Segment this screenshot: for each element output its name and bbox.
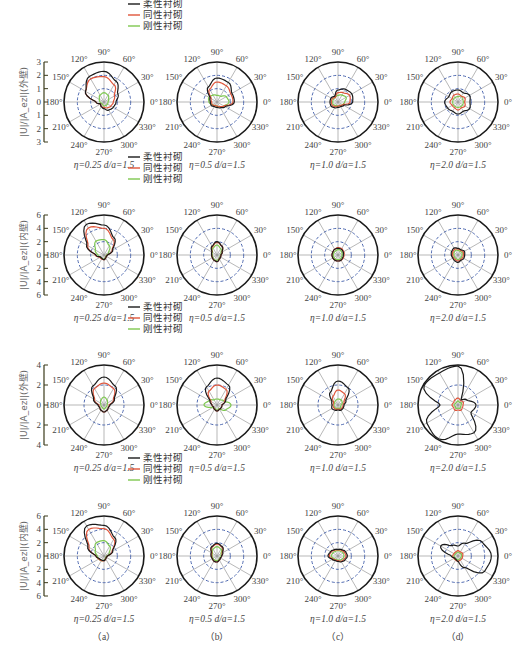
polar-plot-b: 0°30°60°90°120°150°180°210°240°270°300°3… (158, 501, 271, 642)
angle-tick-label: 300° (474, 293, 492, 303)
panel-params: η=0.25 d/a=1.5 (74, 614, 135, 624)
angle-tick-label: 30° (141, 72, 154, 82)
angle-tick-label: 0° (263, 250, 272, 260)
panel-params: η=1.0 d/a=1.5 (310, 160, 366, 170)
angle-tick-label: 0° (504, 250, 513, 260)
angle-tick-label: 150° (52, 375, 70, 385)
y-tick-label: 4 (37, 578, 42, 588)
angle-tick-label: 270° (449, 450, 467, 460)
polar-plot-d: 0°30°60°90°120°150°180°210°240°270°300°3… (399, 350, 512, 473)
angle-tick-label: 150° (286, 72, 304, 82)
angle-tick-label: 90° (98, 350, 111, 360)
angle-tick-label: 180° (158, 551, 176, 561)
angle-tick-label: 240° (70, 594, 88, 604)
panel-params: η=1.0 d/a=1.5 (310, 463, 366, 473)
y-tick-label: 0 (37, 551, 42, 561)
panel-params: η=0.25 d/a=1.5 (74, 463, 135, 473)
angle-tick-label: 240° (183, 140, 201, 150)
legend-label: 刚性衬砌 (143, 173, 183, 184)
angle-tick-label: 90° (98, 200, 111, 210)
angle-tick-label: 270° (449, 147, 467, 157)
figure-row-3: 柔性衬砌同性衬砌刚性衬砌42024|U|/|A_ezl|(外壁)0°30°60°… (18, 301, 512, 473)
angle-tick-label: 90° (332, 200, 345, 210)
angle-tick-label: 270° (329, 147, 347, 157)
angle-tick-label: 30° (495, 375, 508, 385)
legend: 柔性衬砌同性衬砌刚性衬砌 (128, 301, 183, 334)
angle-tick-label: 270° (95, 147, 113, 157)
angle-tick-label: 300° (474, 443, 492, 453)
angle-tick-label: 300° (354, 443, 372, 453)
panel-params: η=1.0 d/a=1.5 (310, 313, 366, 323)
angle-tick-label: 180° (399, 250, 417, 260)
angle-tick-label: 150° (165, 72, 183, 82)
angle-tick-label: 180° (158, 97, 176, 107)
angle-tick-label: 30° (495, 526, 508, 536)
angle-tick-label: 60° (357, 357, 370, 367)
angle-tick-label: 210° (52, 122, 70, 132)
legend-label: 同性衬砌 (143, 312, 183, 323)
angle-tick-label: 60° (123, 207, 136, 217)
angle-tick-label: 330° (493, 425, 511, 435)
angle-tick-label: 0° (263, 400, 272, 410)
angle-tick-label: 90° (452, 501, 465, 511)
angle-tick-label: 60° (123, 357, 136, 367)
angle-tick-label: 300° (354, 594, 372, 604)
angle-tick-label: 270° (95, 300, 113, 310)
angle-tick-label: 180° (158, 400, 176, 410)
angle-tick-label: 210° (165, 275, 183, 285)
angle-tick-label: 0° (384, 97, 393, 107)
angle-tick-label: 90° (211, 501, 224, 511)
panel-params: η=2.0 d/a=1.5 (430, 160, 486, 170)
angle-tick-label: 300° (233, 594, 251, 604)
y-axis: 3210123|U|/|A_ezl|(外壁) (18, 57, 48, 147)
y-tick-label: 6 (37, 591, 42, 601)
angle-tick-label: 240° (424, 140, 442, 150)
angle-tick-label: 0° (263, 97, 272, 107)
angle-tick-label: 120° (424, 207, 442, 217)
polar-plot-d: 0°30°60°90°120°150°180°210°240°270°300°3… (399, 501, 512, 642)
angle-tick-label: 120° (183, 54, 201, 64)
angle-tick-label: 240° (304, 140, 322, 150)
angle-tick-label: 60° (477, 357, 490, 367)
angle-tick-label: 300° (233, 443, 251, 453)
angle-tick-label: 270° (208, 450, 226, 460)
angle-tick-label: 330° (373, 122, 391, 132)
angle-tick-label: 150° (286, 526, 304, 536)
y-tick-label: 6 (37, 511, 42, 521)
angle-tick-label: 300° (120, 443, 138, 453)
series-curve (424, 366, 476, 440)
angle-tick-label: 150° (165, 526, 183, 536)
angle-tick-label: 150° (406, 72, 424, 82)
angle-tick-label: 180° (45, 400, 63, 410)
angle-tick-label: 90° (211, 200, 224, 210)
polar-plot-a: 0°30°60°90°120°150°180°210°240°270°300°3… (45, 501, 158, 642)
angle-tick-label: 120° (70, 54, 88, 64)
polar-plot-c: 0°30°60°90°120°150°180°210°240°270°300°3… (279, 350, 392, 473)
y-axis-label: |U|/|A_ezl|(外壁) (18, 370, 29, 440)
angle-tick-label: 180° (279, 400, 297, 410)
legend: 柔性衬砌同性衬砌刚性衬砌 (128, 452, 183, 485)
angle-tick-label: 60° (477, 207, 490, 217)
y-tick-label: 3 (37, 57, 42, 67)
y-tick-label: 4 (37, 440, 42, 450)
angle-tick-label: 330° (373, 425, 391, 435)
angle-tick-label: 330° (252, 425, 270, 435)
y-tick-label: 2 (37, 380, 42, 390)
angle-tick-label: 300° (120, 140, 138, 150)
angle-tick-label: 300° (354, 293, 372, 303)
angle-tick-label: 270° (208, 147, 226, 157)
angle-tick-label: 210° (286, 425, 304, 435)
angle-tick-label: 210° (406, 122, 424, 132)
angle-tick-label: 120° (183, 508, 201, 518)
angle-tick-label: 30° (141, 225, 154, 235)
angle-tick-label: 60° (123, 508, 136, 518)
angle-tick-label: 270° (329, 300, 347, 310)
angle-tick-label: 30° (254, 225, 267, 235)
angle-tick-label: 30° (254, 375, 267, 385)
angle-tick-label: 180° (399, 551, 417, 561)
angle-tick-label: 270° (449, 300, 467, 310)
angle-tick-label: 120° (304, 54, 322, 64)
angle-tick-label: 90° (332, 350, 345, 360)
angle-tick-label: 300° (354, 140, 372, 150)
y-tick-label: 2 (37, 237, 42, 247)
